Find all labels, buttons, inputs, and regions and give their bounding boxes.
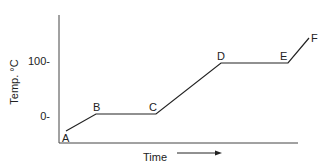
point-label-f: F (311, 33, 318, 44)
heating-curve-chart (0, 0, 334, 167)
heating-curve-line (66, 38, 309, 131)
y-axis-label: Temp. °C (8, 52, 20, 112)
point-label-d: D (217, 51, 225, 62)
point-label-a: A (62, 133, 69, 144)
point-label-e: E (280, 51, 287, 62)
arrow-head-icon (215, 151, 222, 156)
point-label-c: C (149, 102, 157, 113)
point-label-b: B (93, 102, 100, 113)
y-tick-0: 0- (20, 110, 50, 122)
x-axis-label: Time (143, 151, 167, 163)
y-tick-100: 100- (20, 55, 50, 67)
